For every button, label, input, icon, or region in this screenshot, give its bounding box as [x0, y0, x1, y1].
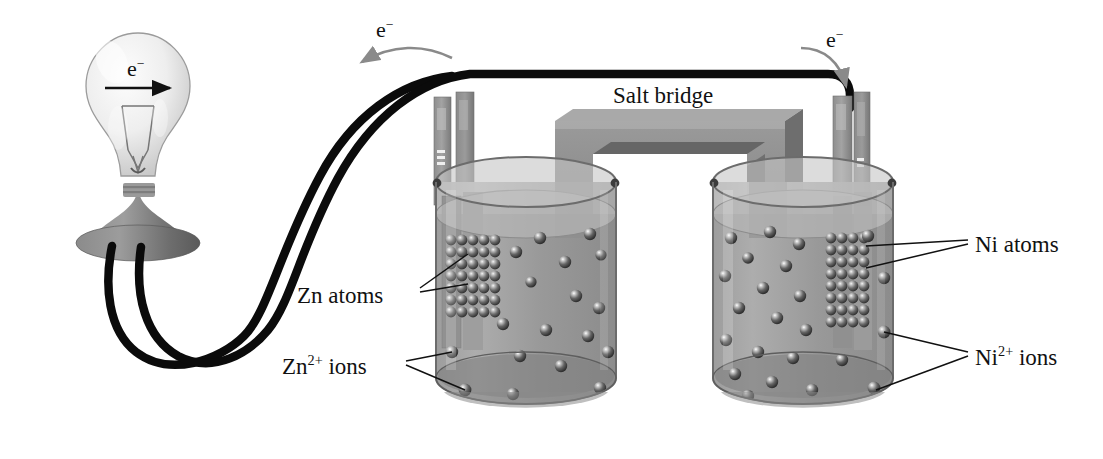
label-zn-ions: Zn2+ ions [282, 352, 367, 380]
electron-charge-bulb: − [137, 56, 145, 71]
electrochemical-cell-illustration [0, 0, 1103, 459]
left-beaker [433, 157, 620, 408]
label-ni-ions: Ni2+ ions [975, 343, 1057, 371]
leader-ni-ions-1 [884, 332, 968, 352]
figure-canvas: Zn atoms Zn2+ ions Ni atoms Ni2+ ions Sa… [0, 0, 1103, 459]
bulb-glass [86, 33, 190, 176]
label-salt-bridge: Salt bridge [613, 83, 713, 109]
label-electron-bulb: e− [127, 56, 144, 82]
label-zn-atoms: Zn atoms [297, 283, 383, 309]
label-electron-left: e− [376, 17, 393, 43]
label-electron-right: e− [826, 27, 843, 53]
zn-ion-charge: 2+ [308, 352, 323, 368]
electron-charge-left: − [386, 17, 394, 32]
label-ni-atoms: Ni atoms [975, 232, 1059, 258]
ni-ion-charge: 2+ [998, 343, 1013, 359]
right-beaker [710, 157, 897, 408]
electron-arrow-left [362, 48, 452, 62]
electron-charge-right: − [836, 27, 844, 42]
